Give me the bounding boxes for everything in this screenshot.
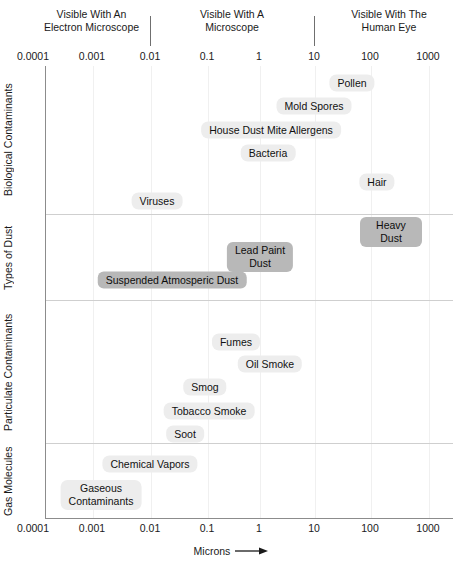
visibility-band-divider-1: [150, 16, 151, 46]
item-mold-spores[interactable]: Mold Spores: [277, 98, 352, 115]
plot-area: Pollen Mold Spores House Dust Mite Aller…: [45, 66, 453, 518]
visibility-band-human-eye: Visible With The Human Eye: [326, 8, 452, 33]
section-divider-1: [46, 214, 453, 215]
item-fumes[interactable]: Fumes: [212, 334, 260, 351]
x-axis-ticks-top: 0.0001 0.001 0.01 0.1 1 10 100 1000: [0, 49, 463, 63]
visibility-band-microscope: Visible With A Microscope: [162, 8, 302, 33]
x-tick-bottom-0.001: 0.001: [79, 521, 105, 535]
item-lead-paint-dust[interactable]: Lead Paint Dust: [227, 242, 293, 272]
x-axis-ticks-bottom: 0.0001 0.001 0.01 0.1 1 10 100 1000: [0, 521, 463, 535]
visibility-band-header: Visible With An Electron Microscope Visi…: [0, 8, 463, 46]
item-oil-smoke[interactable]: Oil Smoke: [238, 356, 302, 373]
x-tick-top-1000: 1000: [416, 49, 439, 63]
x-tick-top-0.1: 0.1: [200, 49, 215, 63]
item-house-dust-mite-allergens[interactable]: House Dust Mite Allergens: [201, 122, 341, 139]
gridline-0.001: [93, 66, 94, 518]
x-tick-top-10: 10: [308, 49, 320, 63]
x-tick-bottom-0.0001: 0.0001: [17, 521, 49, 535]
section-divider-3: [46, 443, 453, 444]
x-tick-bottom-0.1: 0.1: [200, 521, 215, 535]
x-axis-line: [45, 518, 453, 519]
x-tick-bottom-100: 100: [361, 521, 379, 535]
item-heavy-dust[interactable]: Heavy Dust: [360, 217, 422, 247]
x-tick-bottom-1: 1: [256, 521, 262, 535]
item-viruses[interactable]: Viruses: [132, 193, 183, 210]
category-label-types-of-dust: Types of Dust: [0, 215, 16, 300]
item-pollen[interactable]: Pollen: [329, 75, 374, 92]
item-tobacco-smoke[interactable]: Tobacco Smoke: [164, 403, 255, 420]
item-soot[interactable]: Soot: [166, 426, 204, 443]
x-tick-top-0.001: 0.001: [79, 49, 105, 63]
item-gaseous-contaminants[interactable]: Gaseous Contaminants: [61, 480, 142, 510]
x-tick-bottom-10: 10: [308, 521, 320, 535]
category-label-particulate-contaminants: Particulate Contaminants: [0, 301, 16, 443]
right-arrow-icon: [235, 546, 269, 556]
x-tick-top-0.01: 0.01: [140, 49, 160, 63]
section-divider-2: [46, 300, 453, 301]
x-tick-bottom-0.01: 0.01: [140, 521, 160, 535]
x-tick-top-100: 100: [361, 49, 379, 63]
gridline-1000: [429, 66, 430, 518]
category-label-biological-contaminants: Biological Contaminants: [0, 66, 16, 214]
item-suspended-atmosperic-dust[interactable]: Suspended Atmosperic Dust: [98, 272, 247, 289]
x-axis-title: Microns: [0, 545, 463, 557]
category-label-gas-molecules: Gas Molecules: [0, 444, 16, 518]
x-tick-bottom-1000: 1000: [416, 521, 439, 535]
x-axis-title-text: Microns: [194, 545, 231, 557]
visibility-band-divider-2: [314, 16, 315, 46]
gridline-100: [371, 66, 372, 518]
visibility-band-electron-microscope: Visible With An Electron Microscope: [33, 8, 150, 33]
item-hair[interactable]: Hair: [359, 174, 394, 191]
item-bacteria[interactable]: Bacteria: [241, 145, 296, 162]
x-tick-top-1: 1: [256, 49, 262, 63]
item-chemical-vapors[interactable]: Chemical Vapors: [102, 456, 197, 473]
gridline-0.01: [151, 66, 152, 518]
contaminant-size-chart: Visible With An Electron Microscope Visi…: [0, 0, 463, 577]
x-tick-top-0.0001: 0.0001: [17, 49, 49, 63]
item-smog[interactable]: Smog: [183, 379, 226, 396]
